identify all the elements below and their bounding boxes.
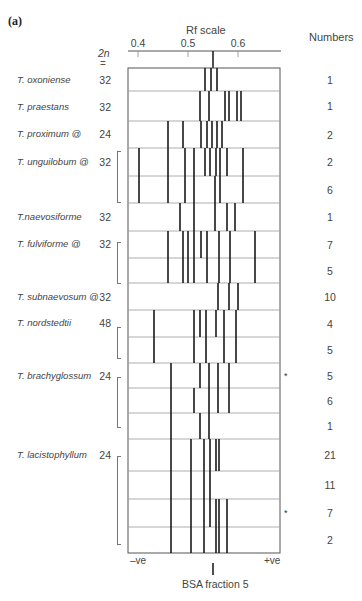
reference-label: BSA fraction 5 [182, 578, 249, 590]
negative-pole-label: –ve [130, 555, 146, 566]
band-pattern-plot [0, 0, 362, 601]
positive-pole-label: +ve [264, 555, 280, 566]
